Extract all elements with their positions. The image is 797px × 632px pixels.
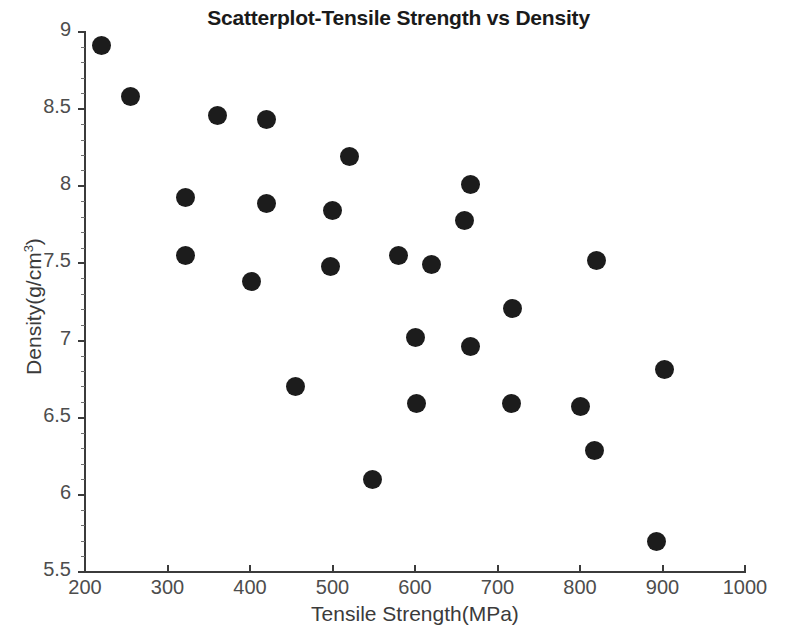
y-axis-label: Density(g/cm3) bbox=[21, 177, 46, 437]
data-point bbox=[503, 299, 522, 318]
data-point bbox=[92, 36, 111, 55]
x-tick-label-700: 700 bbox=[458, 576, 538, 599]
data-point bbox=[406, 328, 425, 347]
data-point bbox=[461, 175, 480, 194]
data-point bbox=[286, 377, 305, 396]
x-tick-label-900: 900 bbox=[623, 576, 703, 599]
plot-area bbox=[85, 32, 745, 572]
data-point bbox=[422, 255, 441, 274]
x-tick-label-500: 500 bbox=[293, 576, 373, 599]
y-tick-8.5 bbox=[78, 108, 85, 110]
y-axis-label-tail: ) bbox=[22, 238, 45, 245]
y-tick-7 bbox=[78, 340, 85, 342]
y-tick-label-8: 8 bbox=[60, 172, 71, 195]
y-axis-label-main: Density(g/cm bbox=[22, 252, 45, 375]
x-axis-label: Tensile Strength(MPa) bbox=[85, 602, 745, 626]
x-tick-label-200: 200 bbox=[45, 576, 125, 599]
data-point bbox=[647, 532, 666, 551]
x-tick-label-400: 400 bbox=[210, 576, 290, 599]
data-point bbox=[571, 397, 590, 416]
data-point bbox=[585, 441, 604, 460]
data-point bbox=[502, 394, 521, 413]
chart-title: Scatterplot-Tensile Strength vs Density bbox=[0, 6, 797, 30]
data-point bbox=[587, 251, 606, 270]
y-tick-6 bbox=[78, 494, 85, 496]
data-point bbox=[208, 106, 227, 125]
y-tick-label-8.5: 8.5 bbox=[43, 95, 71, 118]
y-tick-9 bbox=[78, 31, 85, 33]
y-tick-label-6: 6 bbox=[60, 481, 71, 504]
x-tick-label-800: 800 bbox=[540, 576, 620, 599]
y-tick-label-7.5: 7.5 bbox=[43, 249, 71, 272]
x-tick-label-1000: 1000 bbox=[705, 576, 785, 599]
data-point bbox=[257, 194, 276, 213]
y-tick-label-9: 9 bbox=[60, 18, 71, 41]
data-point bbox=[121, 87, 140, 106]
data-point bbox=[321, 257, 340, 276]
data-point bbox=[340, 147, 359, 166]
data-point bbox=[176, 246, 195, 265]
scatterplot-figure: Scatterplot-Tensile Strength vs Density … bbox=[0, 0, 797, 632]
data-point bbox=[389, 246, 408, 265]
y-tick-label-6.5: 6.5 bbox=[43, 404, 71, 427]
y-tick-7.5 bbox=[78, 262, 85, 264]
x-tick-label-600: 600 bbox=[375, 576, 455, 599]
data-point bbox=[407, 394, 426, 413]
data-point bbox=[323, 201, 342, 220]
data-point bbox=[242, 272, 261, 291]
data-point bbox=[176, 188, 195, 207]
y-tick-8 bbox=[78, 185, 85, 187]
data-point bbox=[363, 470, 382, 489]
data-point bbox=[461, 337, 480, 356]
x-tick-label-300: 300 bbox=[128, 576, 208, 599]
data-point bbox=[655, 360, 674, 379]
y-tick-label-7: 7 bbox=[60, 327, 71, 350]
y-axis-label-superscript: 3 bbox=[21, 245, 36, 252]
y-tick-6.5 bbox=[78, 417, 85, 419]
data-point bbox=[455, 211, 474, 230]
data-point bbox=[257, 110, 276, 129]
